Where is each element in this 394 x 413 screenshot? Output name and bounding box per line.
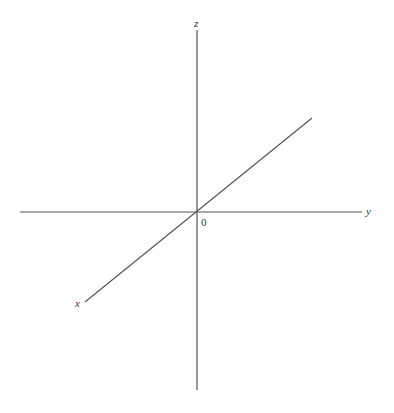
z-axis-label: z: [194, 18, 198, 29]
x-axis-label: x: [75, 298, 80, 309]
origin-label: 0: [201, 217, 207, 228]
x-axis-line: [85, 118, 312, 302]
axes-diagram: [0, 0, 394, 413]
y-axis-label: y: [366, 206, 371, 217]
